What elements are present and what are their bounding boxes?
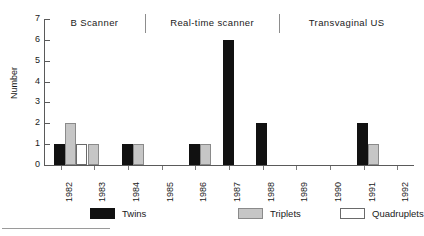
legend-label: Twins — [122, 209, 146, 219]
x-tick — [61, 166, 62, 170]
x-tick-label: 1984 — [132, 168, 141, 202]
x-tick — [162, 166, 163, 170]
x-tick — [397, 166, 398, 170]
y-axis-title: Number — [9, 53, 19, 113]
x-tick — [94, 166, 95, 170]
legend-item-quadruplets: Quadruplets — [340, 208, 424, 219]
x-tick-label: 1990 — [334, 168, 343, 202]
bar-twins-1991 — [357, 123, 368, 165]
x-tick — [330, 166, 331, 170]
y-tick-label: 0 — [26, 160, 40, 169]
x-tick-label: 1992 — [401, 168, 410, 202]
bar-twins-1984 — [122, 144, 133, 165]
bar-twins-1988 — [256, 123, 267, 165]
bar-triplets-1982 — [65, 123, 76, 165]
footer-divider — [2, 228, 110, 229]
chart-legend: TwinsTripletsQuadruplets — [90, 208, 410, 222]
y-tick-label: 1 — [26, 139, 40, 148]
x-tick-label: 1982 — [65, 168, 74, 202]
twins-swatch — [90, 208, 115, 219]
bar-twins-1986 — [189, 144, 200, 165]
x-tick — [364, 166, 365, 170]
quadruplets-swatch — [340, 208, 365, 219]
bar-quadruplets-1982 — [76, 144, 87, 165]
bar-twins-1987 — [223, 40, 234, 165]
bar-triplets-1986 — [200, 144, 211, 165]
bar-twins-1982 — [54, 144, 65, 165]
bar-triplets-1991 — [368, 144, 379, 165]
x-tick — [296, 166, 297, 170]
x-tick-label: 1991 — [368, 168, 377, 202]
y-tick-label: 7 — [26, 14, 40, 23]
legend-label: Quadruplets — [372, 209, 424, 219]
y-tick-label: 3 — [26, 97, 40, 106]
triplets-swatch — [238, 208, 263, 219]
x-tick — [128, 166, 129, 170]
y-tick-label: 6 — [26, 35, 40, 44]
x-tick-label: 1989 — [300, 168, 309, 202]
y-tick-label: 4 — [26, 77, 40, 86]
legend-label: Triplets — [270, 209, 301, 219]
x-tick-label: 1986 — [199, 168, 208, 202]
x-tick-label: 1988 — [267, 168, 276, 202]
y-tick-label: 2 — [26, 118, 40, 127]
x-tick — [195, 166, 196, 170]
legend-item-twins: Twins — [90, 208, 146, 219]
plot-area — [44, 19, 414, 165]
bar-triplets-1984 — [133, 144, 144, 165]
x-tick-label: 1985 — [166, 168, 175, 202]
x-tick — [263, 166, 264, 170]
bar-chart: Number 01234567 B ScannerReal-time scann… — [0, 0, 424, 236]
y-tick-label: 5 — [26, 56, 40, 65]
x-tick-label: 1987 — [233, 168, 242, 202]
x-tick — [229, 166, 230, 170]
legend-item-triplets: Triplets — [238, 208, 301, 219]
bar-triplets-1983 — [88, 144, 99, 165]
x-tick-label: 1983 — [98, 168, 107, 202]
